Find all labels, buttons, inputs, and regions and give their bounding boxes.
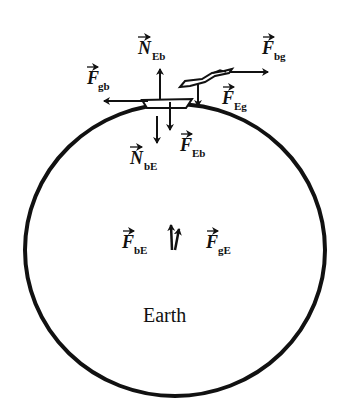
svg-text:bg: bg <box>274 50 286 62</box>
label-N-bE: N bE <box>129 147 157 172</box>
label-N-Eb: N Eb <box>137 37 165 62</box>
label-F-gb: F gb <box>86 67 110 92</box>
arrow-F-gE <box>175 229 179 250</box>
label-F-Eb: F Eb <box>179 134 205 159</box>
person-figure <box>180 69 232 87</box>
svg-text:N: N <box>129 148 144 168</box>
svg-text:gE: gE <box>218 244 231 256</box>
svg-text:N: N <box>137 38 152 58</box>
free-body-diagram: Earth N Eb F gb F bg F Eg N <box>0 0 339 403</box>
svg-text:bE: bE <box>134 244 147 256</box>
svg-text:F: F <box>205 232 218 252</box>
svg-text:F: F <box>121 232 134 252</box>
svg-text:Eb: Eb <box>192 147 205 159</box>
block <box>142 99 192 108</box>
svg-text:F: F <box>221 88 234 108</box>
svg-text:F: F <box>261 38 274 58</box>
arrow-F-bE <box>171 225 172 250</box>
label-F-gE: F gE <box>205 231 231 256</box>
svg-text:Eb: Eb <box>152 50 165 62</box>
svg-text:Eg: Eg <box>234 100 247 112</box>
svg-text:gb: gb <box>98 80 110 92</box>
svg-text:bE: bE <box>144 160 157 172</box>
label-F-bE: F bE <box>121 231 147 256</box>
svg-text:F: F <box>179 135 192 155</box>
label-F-Eg: F Eg <box>221 87 247 112</box>
label-F-bg: F bg <box>261 37 286 62</box>
earth-label: Earth <box>143 304 186 326</box>
